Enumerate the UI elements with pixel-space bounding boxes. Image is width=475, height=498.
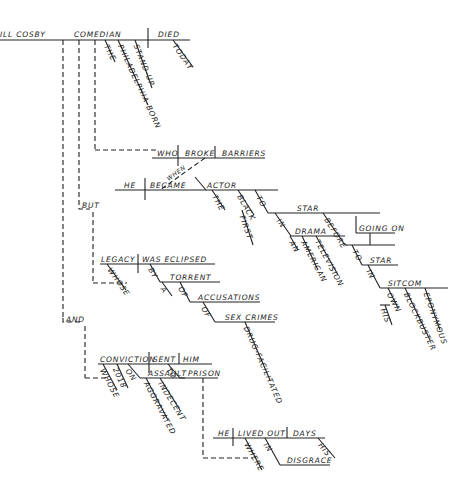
word-who: WHO <box>157 149 178 158</box>
word-him: HIM <box>183 355 200 364</box>
word-but: BUT <box>82 201 100 210</box>
word-sitcom: SITCOM <box>388 279 422 288</box>
word-was-eclipsed: WAS ECLIPSED <box>142 255 207 264</box>
word-conviction: CONVICTION <box>100 355 156 364</box>
word-actor: ACTOR <box>207 181 237 190</box>
word-legacy: LEGACY <box>101 255 135 264</box>
word-lived-out: LIVED OUT <box>238 429 286 438</box>
word-broke: BROKE <box>185 149 215 158</box>
word-verb-died: DIED <box>158 30 180 39</box>
word-sent: SENT <box>153 355 176 364</box>
word-star: STAR <box>297 204 319 213</box>
word-going-on: GOING ON <box>359 224 405 233</box>
word-and: AND <box>66 315 85 324</box>
word-accusations: ACCUSATIONS <box>198 293 260 302</box>
word-he-2: HE <box>218 429 230 438</box>
word-days: DAYS <box>293 429 316 438</box>
diagram-lines <box>0 0 475 498</box>
word-appositive: COMEDIAN <box>74 30 121 39</box>
word-torrent: TORRENT <box>170 273 211 282</box>
word-barriers: BARRIERS <box>222 149 266 158</box>
sentence-diagram: ILL COSBY COMEDIAN DIED THE PHILADELPHIA… <box>0 0 475 498</box>
word-star-2: STAR <box>370 256 392 265</box>
word-prison: PRISON <box>188 369 221 378</box>
word-subject: ILL COSBY <box>0 30 46 39</box>
word-drama: DRAMA <box>295 227 327 236</box>
word-he: HE <box>124 181 136 190</box>
word-became: BECAME <box>150 181 186 190</box>
word-sex-crimes: SEX CRIMES <box>225 313 279 322</box>
